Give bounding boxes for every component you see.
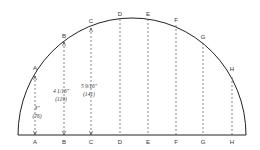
- top-label: G: [201, 34, 206, 40]
- dimension-c: 5 9/16"(141): [81, 83, 98, 98]
- dimension-value: 3": [33, 105, 40, 111]
- dimension-a: 3"(76): [32, 105, 41, 120]
- bottom-label: G: [201, 139, 206, 145]
- top-label: A: [33, 65, 37, 71]
- dimension-metric: (141): [83, 91, 95, 98]
- bottom-label: B: [62, 139, 66, 145]
- bottom-label: E: [146, 139, 150, 145]
- dimension-metric: (76): [32, 113, 41, 120]
- dimension-value: 5 9/16": [81, 83, 98, 89]
- bottom-label: F: [174, 139, 178, 145]
- station-f: FF: [174, 17, 178, 145]
- station-h: HH: [230, 66, 234, 145]
- bottom-label: D: [118, 139, 123, 145]
- dimension-metric: (119): [55, 96, 67, 103]
- dimension-value: 4 1/16": [53, 88, 70, 94]
- top-label: D: [118, 11, 123, 17]
- bottom-label: H: [230, 139, 234, 145]
- top-label: C: [89, 18, 94, 24]
- dimension-b: 4 1/16"(119): [53, 88, 70, 103]
- station-d: DD: [118, 11, 123, 145]
- top-label: H: [230, 66, 234, 72]
- arc-outline: [18, 18, 246, 135]
- bottom-label: C: [89, 139, 94, 145]
- bottom-label: A: [33, 139, 37, 145]
- station-g: GG: [201, 34, 206, 145]
- top-label: E: [146, 11, 150, 17]
- top-label: F: [174, 17, 178, 23]
- arc-ordinate-diagram: AABBCCDDEEFFGGHH 3"(76)4 1/16"(119)5 9/1…: [0, 0, 260, 150]
- station-c: CC: [89, 18, 94, 145]
- station-e: EE: [146, 11, 150, 145]
- top-label: B: [62, 33, 66, 39]
